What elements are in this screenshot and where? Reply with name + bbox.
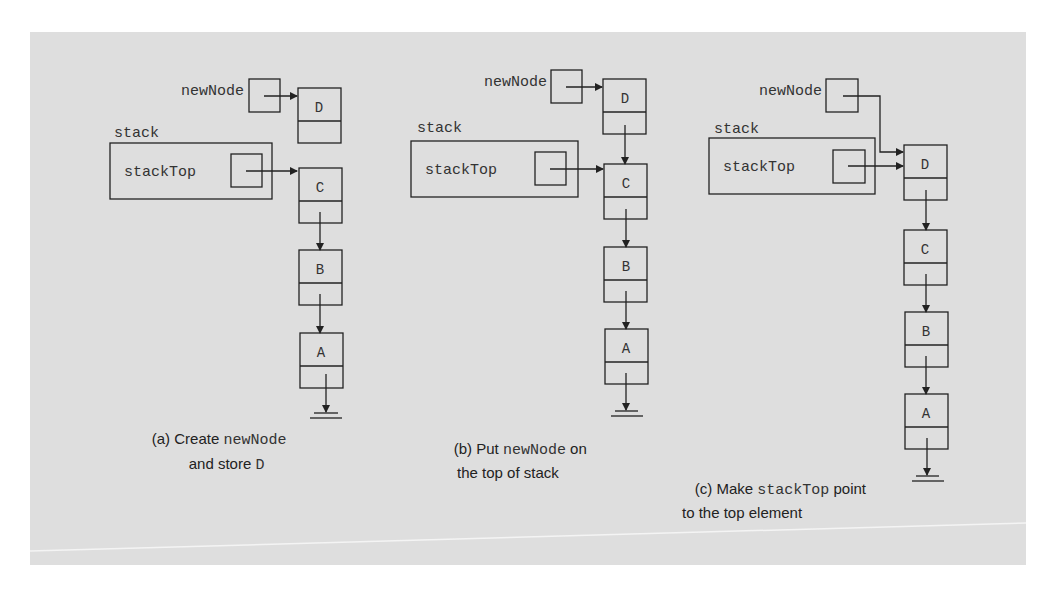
caption-b-line1: (b) Put newNode on [435,440,598,459]
stack-label-a: stack [114,125,159,142]
node-a-value-c: A [922,406,931,422]
node-b-value-a: B [316,262,324,278]
stacktop-label-c: stackTop [723,159,795,176]
node-b-value-c: B [922,324,930,340]
separator-line [30,523,1026,551]
newnode-label-a: newNode [181,83,244,100]
caption-b-line2: the top of stack [457,464,559,481]
newnode-label-c: newNode [759,83,822,100]
node-d-value-b: D [621,91,629,107]
stack-push-diagram: newNode stack stackTop D C B A (a) Creat… [0,0,1058,591]
caption-c-line2: to the top element [682,504,803,521]
node-d-value-c: D [921,157,929,173]
node-a-value-a: A [317,345,326,361]
node-c-value-c: C [921,242,929,258]
panel-c [709,79,948,481]
node-b-value-b: B [622,259,630,275]
node-c-value-b: C [622,176,630,192]
node-c-value-a: C [316,180,324,196]
caption-a-line2: and store D [170,455,276,474]
node-d-value-a: D [315,100,323,116]
newnode-label-b: newNode [484,74,547,91]
stack-label-c: stack [714,121,759,138]
stack-label-b: stack [417,120,462,137]
node-a-value-b: A [622,341,631,357]
stacktop-label-a: stackTop [124,164,196,181]
caption-a-line1: (a) Create newNode [133,430,298,449]
caption-c-line1: (c) Make stackTop point [676,480,877,499]
stacktop-label-b: stackTop [425,162,497,179]
